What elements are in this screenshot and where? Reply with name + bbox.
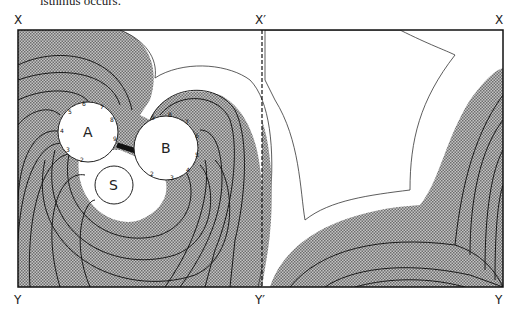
svg-text:7: 7 [100,103,104,110]
svg-text:2: 2 [150,170,154,177]
svg-text:5: 5 [195,151,199,158]
svg-text:9: 9 [151,114,155,121]
svg-text:2: 2 [80,156,84,163]
svg-text:8: 8 [110,116,114,123]
svg-text:6: 6 [195,132,199,139]
svg-text:8: 8 [168,111,172,118]
svg-text:3: 3 [170,174,174,181]
circle-b-label: B [161,140,171,156]
circle-s: S [95,166,133,204]
svg-text:3: 3 [66,146,70,153]
svg-text:4: 4 [186,166,190,173]
central-unexcited-region [265,30,455,220]
svg-text:7: 7 [185,118,189,125]
svg-text:5: 5 [68,108,72,115]
circle-s-label: S [109,177,118,193]
svg-text:4: 4 [60,127,64,134]
reentry-diagram: A 2 3 4 5 6 7 8 9 B 2 3 4 5 6 7 8 9 S [0,0,520,316]
svg-text:9: 9 [113,135,117,142]
svg-text:6: 6 [82,100,86,107]
circle-a-label: A [83,124,93,140]
